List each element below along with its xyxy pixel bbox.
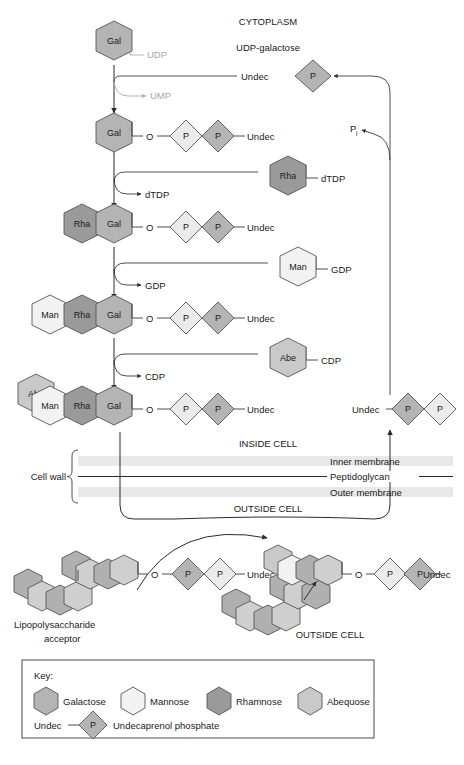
- undec-label-right: Undec: [352, 404, 380, 415]
- p-label-5b: P: [215, 404, 221, 414]
- inside-cell-label: INSIDE CELL: [239, 438, 297, 449]
- node-abe-donor: Abe CDP: [270, 338, 341, 377]
- p-label-3b: P: [215, 222, 221, 232]
- node-rha-donor: Rha dTDP: [270, 156, 345, 195]
- lps-hex-new-gal: [314, 555, 342, 585]
- gal-o-stub-3: [132, 213, 143, 227]
- node-gal-udp: Gal UDP: [96, 21, 167, 60]
- p-label-4a: P: [183, 313, 189, 323]
- undec-label-3: Undec: [247, 222, 275, 233]
- dtdp-byproduct-label: dTDP: [145, 189, 169, 200]
- pi-subscript: i: [356, 130, 357, 137]
- undec-label-2: Undec: [247, 131, 275, 142]
- key-label-mannose: Mannose: [150, 696, 189, 707]
- p-label-2a: P: [183, 131, 189, 141]
- undec-label-4: Undec: [247, 313, 275, 324]
- undec-label-5: Undec: [247, 404, 275, 415]
- abe-donor-label: Abe: [280, 353, 296, 363]
- key-hexagon-mannose: [121, 687, 145, 715]
- pi-label-group: P i: [350, 123, 357, 137]
- key-label-galactose: Galactose: [63, 696, 106, 707]
- acceptor-caption-line2: acceptor: [44, 633, 80, 644]
- node-man-rha-gal-pp-undec: Man Rha Gal O P P Undec: [32, 295, 275, 334]
- rha-label-4: Rha: [74, 310, 91, 320]
- outside-cell-label: OUTSIDE CELL: [234, 503, 303, 514]
- gdp-byproduct-label: GDP: [145, 280, 166, 291]
- p-label-5a: P: [183, 404, 189, 414]
- lps-o-stub-left: [138, 562, 148, 574]
- pathway-figure: Gal UDP UMP CYTOPLASM UDP-galactose Unde…: [0, 0, 464, 765]
- man-label-4: Man: [41, 310, 59, 320]
- p-label-top: P: [310, 71, 316, 81]
- cell-wall-label: Cell wall: [31, 471, 66, 482]
- key-contents: Key: Galactose Mannose Rhamnose Abequose…: [34, 670, 370, 739]
- outside-cell-label-2: OUTSIDE CELL: [296, 629, 365, 640]
- inner-membrane-label: Inner membrane: [330, 456, 400, 467]
- udp-galactose-label: UDP-galactose: [236, 42, 300, 53]
- key-label-abequose: Abequose: [327, 696, 370, 707]
- p-label-3a: P: [183, 222, 189, 232]
- key-undec-label: Undec: [34, 720, 62, 731]
- gal-o-stub-2: [132, 122, 143, 136]
- lps-p-label-right-a: P: [387, 569, 393, 579]
- o-label-4: O: [146, 313, 153, 324]
- peptidoglycan-label-fg: Peptidoglycan: [330, 471, 390, 482]
- lps-o-stub-right: [342, 562, 352, 574]
- node-gal-pp-undec: Gal O P P Undec: [96, 113, 275, 152]
- cytoplasm-label: CYTOPLASM: [239, 16, 298, 27]
- rha-label-3: Rha: [74, 219, 91, 229]
- lps-p-label-left-a: P: [185, 569, 191, 579]
- key-hexagon-galactose: [34, 687, 58, 715]
- cdp-donor-label: CDP: [321, 355, 341, 366]
- lps-p-label-left-b: P: [217, 569, 223, 579]
- o-label-2: O: [146, 131, 153, 142]
- cdp-byproduct-label: CDP: [145, 371, 165, 382]
- key-hexagon-rhamnose: [207, 687, 231, 715]
- gal-label-1: Gal: [107, 36, 121, 46]
- node-man-donor: Man GDP: [280, 247, 352, 286]
- key-hexagon-abequose: [298, 687, 322, 715]
- node-rha-gal-pp-undec: Rha Gal O P P Undec: [64, 204, 275, 243]
- key-heading: Key:: [34, 670, 53, 681]
- o-label-3: O: [146, 222, 153, 233]
- gal-label-4: Gal: [107, 310, 121, 320]
- lps-acceptor-right: O P P Undec OUTSIDE CELL: [222, 545, 451, 640]
- lps-undec-label-right: Undec: [423, 569, 451, 580]
- man-donor-label: Man: [289, 262, 307, 272]
- key-p-label: P: [90, 720, 96, 730]
- rha-donor-label: Rha: [280, 171, 297, 181]
- gal-o-stub-4: [132, 304, 143, 318]
- gdp-donor-label: GDP: [331, 264, 352, 275]
- gal-o-stub-5: [132, 395, 143, 409]
- outer-membrane-label: Outer membrane: [330, 487, 402, 498]
- node-undec-p-top: Undec P: [241, 60, 331, 92]
- udp-byproduct-label: UDP: [147, 49, 167, 60]
- dtdp-donor-label: dTDP: [321, 173, 345, 184]
- gal-label-2: Gal: [107, 128, 121, 138]
- man-label-5: Man: [41, 401, 59, 411]
- gal-label-5: Gal: [107, 401, 121, 411]
- p-label-right-a: P: [405, 404, 411, 414]
- node-undec-pp-right: Undec P P: [352, 393, 456, 425]
- p-label-right-b: P: [437, 404, 443, 414]
- key-carrier-label: Undecaprenol phosphate: [113, 720, 219, 731]
- rha-label-5: Rha: [74, 401, 91, 411]
- gal-label-3: Gal: [107, 219, 121, 229]
- o-label-5: O: [146, 404, 153, 415]
- key-label-rhamnose: Rhamnose: [236, 696, 282, 707]
- p-label-2b: P: [215, 131, 221, 141]
- lps-o-label-right: O: [355, 569, 362, 580]
- undec-label-top: Undec: [241, 71, 269, 82]
- ump-byproduct-label: UMP: [150, 90, 171, 101]
- lps-o-label-left: O: [151, 569, 158, 580]
- acceptor-caption-line1: Lipopolysaccharide: [14, 619, 95, 630]
- lps-hex-l8: [110, 555, 138, 585]
- p-label-4b: P: [215, 313, 221, 323]
